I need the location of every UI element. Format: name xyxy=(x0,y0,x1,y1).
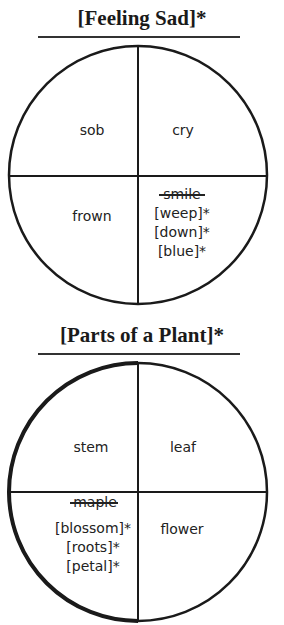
added-word: [roots]* xyxy=(66,539,119,555)
added-word: [petal]* xyxy=(66,558,119,574)
quadrant-top-left-text: sob xyxy=(80,122,105,138)
quadrant-bottom-left-text: frown xyxy=(72,208,111,224)
added-word: [blossom]* xyxy=(55,520,131,536)
quadrant-bottom-right-text: flower xyxy=(160,521,203,537)
quadrant-top-right-text: leaf xyxy=(170,439,197,455)
struck-word: maple xyxy=(73,494,117,510)
quadrant-top-left-text: stem xyxy=(73,439,108,455)
added-word: [weep]* xyxy=(154,205,210,221)
struck-word: smile xyxy=(163,186,200,202)
diagram-2-title: [Parts of a Plant]* xyxy=(0,323,284,348)
added-word: [blue]* xyxy=(158,243,206,259)
added-word: [down]* xyxy=(154,224,210,240)
diagram-1-circle: sob cry frown smile [weep]* [down]* [blu… xyxy=(0,0,284,310)
quadrant-top-right-text: cry xyxy=(172,122,194,138)
diagram-2-circle: stem leaf maple [blossom]* [roots]* [pet… xyxy=(0,355,284,625)
